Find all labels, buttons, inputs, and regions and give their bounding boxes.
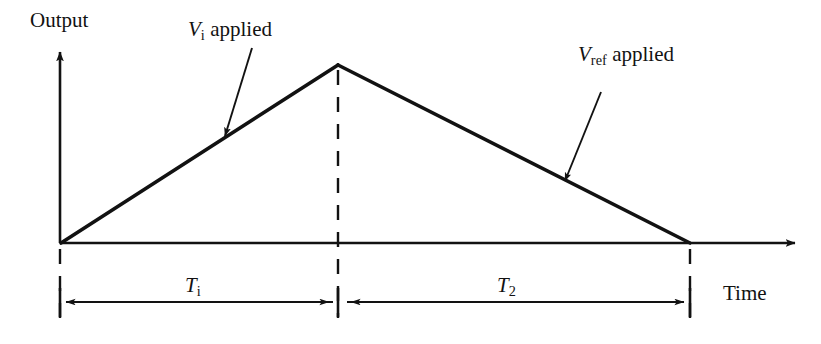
vref-annotation-arrow (565, 92, 601, 181)
t2-variable: T (497, 273, 509, 297)
vi-applied-text: applied (205, 17, 272, 41)
vref-applied-label: Vref applied (578, 44, 674, 65)
t1-subscript: i (197, 283, 201, 299)
ramp-up-segment (61, 65, 338, 243)
dimension-label-t2: T2 (497, 275, 516, 296)
vref-variable: V (578, 42, 591, 66)
vref-applied-text: applied (607, 42, 674, 66)
t1-variable: T (185, 273, 197, 297)
diagram-canvas (0, 0, 821, 344)
ramp-down-segment (338, 65, 690, 243)
x-axis-label: Time (723, 283, 767, 304)
dimension-label-t1: Ti (185, 275, 201, 296)
y-axis-label: Output (30, 10, 88, 31)
t2-subscript: 2 (509, 283, 516, 299)
vref-subscript: ref (591, 52, 607, 68)
vi-subscript: i (201, 27, 205, 43)
vi-applied-label: Vi applied (188, 19, 272, 40)
waveform-diagram: Output Time Vi applied Vref applied Ti T… (0, 0, 821, 344)
vi-variable: V (188, 17, 201, 41)
